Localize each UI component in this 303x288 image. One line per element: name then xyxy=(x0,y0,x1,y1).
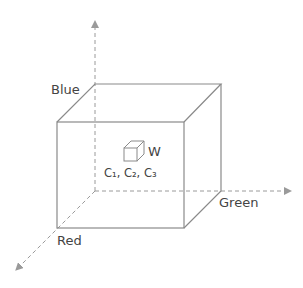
inner-cube-front-face xyxy=(124,148,137,161)
diagram-canvas: Blue Green Red W C₁, C₂, C₃ xyxy=(0,0,303,288)
inner-cube-label: W xyxy=(148,144,161,159)
rgb-cube-diagram: Blue Green Red W C₁, C₂, C₃ xyxy=(0,0,303,288)
green-axis-label: Green xyxy=(219,195,258,210)
outer-cube-right-edges xyxy=(184,84,221,228)
blue-axis-label: Blue xyxy=(51,82,80,97)
outer-cube xyxy=(57,84,221,228)
inner-cube-w xyxy=(124,141,144,161)
outer-cube-top-edges xyxy=(57,84,221,122)
inner-cube-caption: C₁, C₂, C₃ xyxy=(104,166,157,180)
red-axis-label: Red xyxy=(57,233,82,248)
inner-cube-top-edges xyxy=(124,141,144,148)
